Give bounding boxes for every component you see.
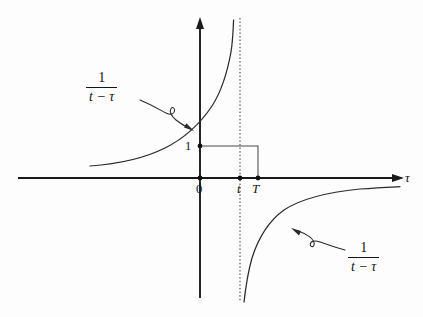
point-t — [238, 176, 243, 181]
y-axis-arrowhead — [196, 17, 204, 29]
pointer-squiggle-lower — [297, 231, 345, 250]
pointer-arrowhead-lower — [291, 228, 301, 235]
axis-label-origin: 0 — [196, 183, 202, 196]
label-function-lower: 1 t − τ — [348, 240, 379, 274]
point-T — [256, 176, 261, 181]
label-function-upper: 1 t − τ — [86, 70, 117, 104]
label-function-lower-denominator: t − τ — [348, 258, 379, 275]
label-function-upper-denominator: t − τ — [86, 88, 117, 105]
label-function-lower-numerator: 1 — [348, 240, 379, 257]
point-origin — [198, 176, 203, 181]
pointer-arrowhead-upper — [184, 123, 194, 131]
label-function-upper-numerator: 1 — [86, 70, 117, 87]
unit-rectangle-outline — [200, 146, 258, 178]
axis-label-one: 1 — [185, 140, 191, 153]
axis-label-T: T — [252, 182, 259, 195]
axis-label-tau: τ — [405, 171, 410, 184]
axis-label-t: t — [237, 183, 240, 196]
x-axis-arrowhead — [392, 174, 404, 182]
pointer-squiggle-upper — [140, 100, 188, 128]
hyperbola-figure: 1 t − τ 1 t − τ 1 0 t T τ — [0, 0, 423, 317]
point-one-on-y-axis — [198, 144, 203, 149]
